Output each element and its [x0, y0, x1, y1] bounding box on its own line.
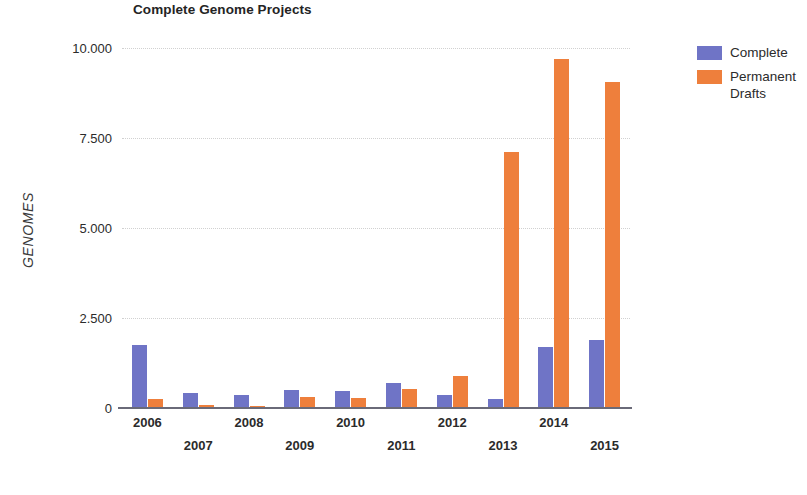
- chart-title: Complete Genome Projects: [133, 2, 312, 17]
- bar-group: [386, 48, 417, 408]
- x-axis-tick-label: 2015: [575, 438, 635, 453]
- legend-swatch-icon: [697, 46, 722, 60]
- x-axis-tick-label: 2010: [321, 415, 381, 430]
- legend-item-label: Complete: [730, 44, 788, 61]
- bar-permanent-drafts[interactable]: [504, 152, 519, 408]
- x-axis-line: [118, 407, 632, 409]
- x-axis-tick-label: 2009: [270, 438, 330, 453]
- bar-group: [538, 48, 569, 408]
- bar-group: [234, 48, 265, 408]
- x-axis-tick-label: 2014: [524, 415, 584, 430]
- plot-area: [122, 48, 630, 408]
- y-axis-tick-label: 7.500: [42, 131, 112, 146]
- legend-item[interactable]: Complete: [697, 44, 807, 61]
- x-axis-tick-label: 2007: [168, 438, 228, 453]
- x-axis-tick-label: 2012: [422, 415, 482, 430]
- y-axis-title: GENOMES: [20, 180, 36, 280]
- y-axis-tick-label: 5.000: [42, 221, 112, 236]
- x-axis-tick-label: 2011: [371, 438, 431, 453]
- genome-projects-bar-chart: Complete Genome Projects GENOMES 02.5005…: [0, 0, 807, 495]
- bar-permanent-drafts[interactable]: [402, 389, 417, 408]
- bar-permanent-drafts[interactable]: [453, 376, 468, 408]
- y-axis-tick-label: 10.000: [42, 41, 112, 56]
- bar-complete[interactable]: [386, 383, 401, 408]
- bar-complete[interactable]: [538, 347, 553, 408]
- bar-group: [335, 48, 366, 408]
- legend-swatch-icon: [697, 70, 722, 84]
- chart-legend: CompletePermanent Drafts: [697, 44, 807, 109]
- bar-group: [589, 48, 620, 408]
- legend-item-label: Permanent Drafts: [730, 68, 804, 102]
- bar-complete[interactable]: [589, 340, 604, 408]
- bar-group: [132, 48, 163, 408]
- x-axis-tick-label: 2013: [473, 438, 533, 453]
- bar-complete[interactable]: [132, 345, 147, 408]
- bar-group: [488, 48, 519, 408]
- bar-group: [437, 48, 468, 408]
- bar-group: [284, 48, 315, 408]
- bar-complete[interactable]: [335, 391, 350, 408]
- bar-permanent-drafts[interactable]: [554, 59, 569, 408]
- y-axis-tick-label: 2.500: [42, 311, 112, 326]
- x-axis-tick-label: 2006: [117, 415, 177, 430]
- x-axis-tick-label: 2008: [219, 415, 279, 430]
- y-axis-tick-labels: 02.5005.0007.50010.000: [42, 48, 112, 408]
- bar-complete[interactable]: [183, 393, 198, 408]
- bar-complete[interactable]: [437, 395, 452, 408]
- bar-complete[interactable]: [284, 390, 299, 408]
- y-axis-tick-label: 0: [42, 401, 112, 416]
- legend-item[interactable]: Permanent Drafts: [697, 68, 807, 102]
- bar-permanent-drafts[interactable]: [605, 82, 620, 408]
- bar-group: [183, 48, 214, 408]
